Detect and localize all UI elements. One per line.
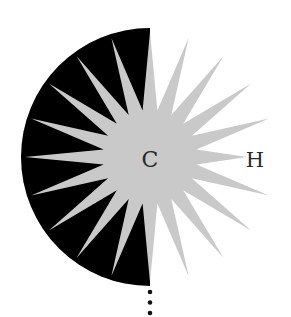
continuation-dot [148, 300, 153, 305]
carbon-label: C [142, 147, 159, 172]
continuation-dot [148, 311, 153, 316]
continuation-dot [148, 290, 153, 295]
atom-diagram: C H [0, 0, 291, 317]
hydrogen-label: H [246, 148, 264, 172]
continuation-dots [148, 290, 153, 316]
